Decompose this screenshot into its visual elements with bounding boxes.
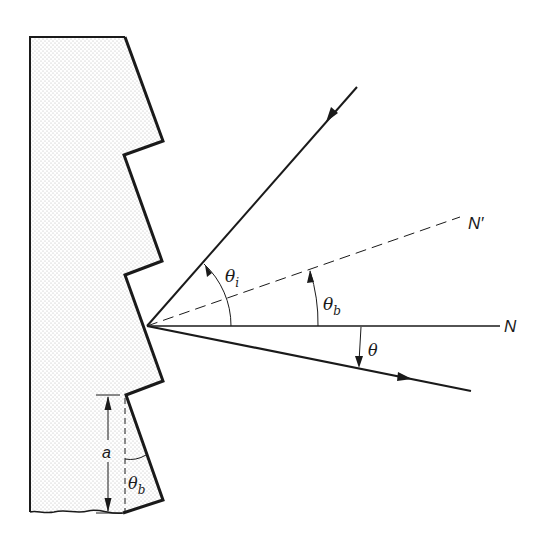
label-theta-i: θi xyxy=(225,266,239,290)
diffracted-angle-arrow-icon xyxy=(355,356,363,368)
label-a: a xyxy=(102,444,111,461)
label-n: N xyxy=(504,317,517,336)
label-theta: θ xyxy=(368,341,378,360)
label-theta-b: θb xyxy=(323,294,341,318)
label-n-prime: N′ xyxy=(468,214,484,233)
diffracted-ray xyxy=(147,326,471,391)
incident-ray xyxy=(147,87,357,326)
blaze-angle-arrow-icon xyxy=(307,270,314,283)
blazed-grating-diagram: a θb N′ N θi θb θ xyxy=(0,0,544,548)
